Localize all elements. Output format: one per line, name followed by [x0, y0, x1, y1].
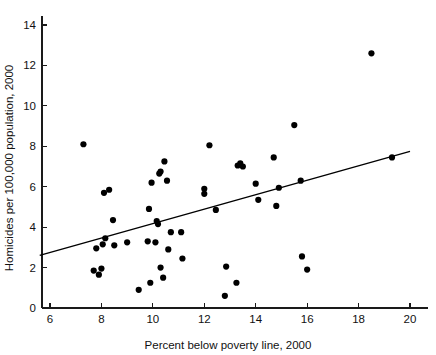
data-point — [80, 141, 86, 147]
data-point — [110, 217, 116, 223]
y-tick-label: 10 — [23, 100, 36, 112]
data-point — [368, 50, 374, 56]
data-point — [147, 280, 153, 286]
x-tick-label: 6 — [47, 313, 53, 325]
x-tick-label: 18 — [352, 313, 365, 325]
x-tick-label: 10 — [146, 313, 159, 325]
x-tick-label: 12 — [198, 313, 211, 325]
data-point — [91, 268, 97, 274]
regression-line-group — [40, 151, 410, 255]
x-axis-title: Percent below poverty line, 2000 — [145, 339, 312, 351]
data-point — [222, 293, 228, 299]
data-point — [206, 142, 212, 148]
data-point — [106, 187, 112, 193]
data-point — [304, 266, 310, 272]
y-tick-label: 0 — [30, 302, 36, 314]
data-point — [111, 242, 117, 248]
data-point — [160, 275, 166, 281]
data-point — [271, 154, 277, 160]
y-tick-label: 8 — [30, 140, 36, 152]
data-point — [389, 154, 395, 160]
tick-labels-group: 6810121416182002468101214 — [23, 19, 416, 325]
data-point — [157, 264, 163, 270]
data-point — [233, 280, 239, 286]
y-tick-label: 12 — [23, 59, 36, 71]
data-point — [255, 197, 261, 203]
data-point — [165, 246, 171, 252]
data-point — [100, 241, 106, 247]
x-tick-label: 20 — [404, 313, 417, 325]
y-tick-label: 6 — [30, 181, 36, 193]
x-tick-label: 8 — [98, 313, 104, 325]
data-point — [136, 287, 142, 293]
data-point — [213, 207, 219, 213]
data-point — [201, 186, 207, 192]
data-point — [145, 238, 151, 244]
regression-line — [40, 151, 410, 255]
data-point — [161, 158, 167, 164]
y-axis-title: Homicides per 100,000 population, 2000 — [3, 65, 15, 272]
data-point — [291, 122, 297, 128]
y-tick-label: 14 — [23, 19, 36, 31]
y-tick-label: 2 — [30, 262, 36, 274]
chart-canvas: 6810121416182002468101214 Percent below … — [0, 0, 436, 355]
data-point — [148, 180, 154, 186]
data-point — [146, 206, 152, 212]
data-point — [179, 255, 185, 261]
data-point — [96, 272, 102, 278]
y-tick-label: 4 — [30, 221, 37, 233]
data-points-group — [80, 50, 395, 299]
data-point — [273, 203, 279, 209]
data-point — [98, 265, 104, 271]
data-point — [164, 178, 170, 184]
data-point — [102, 235, 108, 241]
data-point — [155, 221, 161, 227]
data-point — [276, 185, 282, 191]
data-point — [298, 178, 304, 184]
data-point — [157, 168, 163, 174]
scatter-plot-figure: 6810121416182002468101214 Percent below … — [0, 0, 436, 355]
data-point — [223, 263, 229, 269]
data-point — [93, 245, 99, 251]
data-point — [124, 239, 130, 245]
data-point — [178, 229, 184, 235]
data-point — [253, 181, 259, 187]
x-tick-label: 16 — [301, 313, 314, 325]
data-point — [152, 239, 158, 245]
data-point — [299, 253, 305, 259]
data-point — [168, 229, 174, 235]
x-tick-label: 14 — [249, 313, 262, 325]
data-point — [240, 163, 246, 169]
